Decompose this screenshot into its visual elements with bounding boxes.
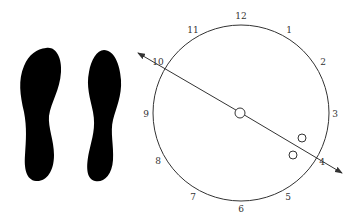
clock-label-7: 7 (190, 192, 196, 202)
marker-b (289, 151, 297, 159)
clock-label-6: 6 (238, 204, 244, 214)
clock-label-2: 2 (320, 57, 326, 67)
clock-label-1: 1 (286, 25, 292, 35)
right-footprint-icon (87, 50, 121, 181)
clock-label-5: 5 (285, 192, 291, 202)
clock-label-12: 12 (235, 11, 246, 21)
orientation-diagram: 12 1 2 3 4 5 6 7 8 9 10 11 (0, 0, 361, 222)
marker-a (298, 134, 306, 142)
clock-label-3: 3 (332, 109, 338, 119)
clock-label-4: 4 (319, 157, 325, 167)
clock-label-11: 11 (187, 25, 198, 35)
direction-axis-line (241, 113, 342, 173)
clock-label-8: 8 (155, 156, 161, 166)
left-footprint-icon (20, 48, 61, 181)
center-marker (235, 108, 245, 118)
clock-label-9: 9 (143, 109, 149, 119)
clock-label-10: 10 (152, 57, 164, 67)
